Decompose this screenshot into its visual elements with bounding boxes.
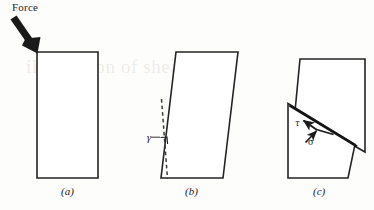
- figure-root: illustration of shear stress: [0, 0, 374, 210]
- shear-strain-gamma-label: γ: [146, 134, 151, 143]
- panel-a: [11, 16, 99, 179]
- force-arrow-icon: [11, 16, 41, 54]
- block-undeformed: [37, 52, 98, 178]
- shear-deformation-diagram: [0, 0, 374, 210]
- panel-label-a: (a): [61, 186, 74, 197]
- panel-b: [152, 52, 239, 179]
- shear-stress-tau-label: τ: [295, 119, 300, 128]
- normal-stress-sigma-label: σ: [308, 138, 314, 147]
- panel-label-b: (b): [185, 186, 198, 197]
- force-label: Force: [12, 2, 38, 13]
- panel-label-c: (c): [313, 186, 325, 197]
- block-sheared: [161, 52, 238, 178]
